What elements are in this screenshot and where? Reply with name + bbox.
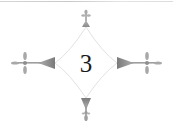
chapter-number: 3	[66, 50, 106, 78]
right-tip-icon	[117, 52, 162, 74]
left-tip-icon	[11, 52, 55, 74]
bottom-tip-icon	[81, 98, 91, 121]
top-tip-icon	[81, 10, 90, 27]
